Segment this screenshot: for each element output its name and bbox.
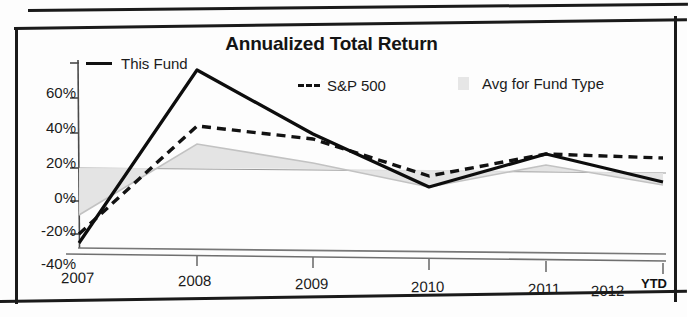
y-tick-label-neg40: -40% <box>41 255 76 272</box>
solid-line-swatch-icon <box>86 62 112 65</box>
legend-item-this-fund: This Fund <box>86 55 188 72</box>
legend-item-sp-500: S&P 500 <box>298 77 386 94</box>
area-fill-swatch-icon <box>458 77 469 90</box>
chart-frame-right-border <box>674 16 677 302</box>
legend-label-this-fund: This Fund <box>121 55 188 72</box>
y-tick-label-40: 40% <box>46 119 76 136</box>
chart-frame-top-border <box>14 18 687 30</box>
y-tick-label-60: 60% <box>46 84 76 101</box>
legend-item-avg-for-fund-type: Avg for Fund Type <box>458 75 604 92</box>
x-axis-spine <box>78 248 666 254</box>
chart-title: Annualized Total Return <box>18 33 673 55</box>
x-axis-ytd-label: YTD <box>641 276 667 291</box>
legend-label-avg-for-fund-type: Avg for Fund Type <box>482 75 604 92</box>
x-axis-baseline-rule <box>66 254 666 261</box>
page-top-rule <box>28 3 688 12</box>
y-tick-label-20: 20% <box>46 154 76 171</box>
dashed-line-swatch-icon <box>298 84 320 87</box>
sp-500-line <box>79 126 663 234</box>
legend-label-sp-500: S&P 500 <box>327 77 386 94</box>
y-tick-label-0: 0% <box>54 189 76 206</box>
y-tick-label-neg20: -20% <box>41 222 76 239</box>
y-axis-spine <box>78 60 80 248</box>
annualized-total-return-chart: Annualized Total Return This Fund S&P 50… <box>18 30 673 298</box>
